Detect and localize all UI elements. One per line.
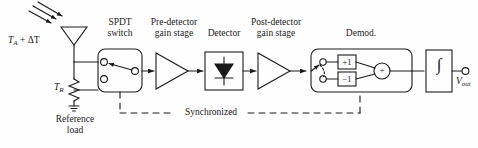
post-detector-amplifier	[258, 53, 290, 89]
wire-plus-to-sum	[356, 62, 375, 68]
reference-load-label: Referenceload	[40, 114, 110, 135]
pre-detector-amplifier	[156, 53, 188, 89]
synchronized-label: Synchronized	[174, 107, 248, 118]
reference-temperature-label: TR	[54, 82, 64, 95]
output-terminal	[462, 68, 469, 75]
spdt-contact-antenna	[101, 59, 108, 66]
antenna-temperature-label: TA + ΔT	[8, 35, 40, 48]
radiometer-diagram: TA + ΔT TR Referenceload SPDTswitch Pre-…	[0, 0, 478, 148]
spdt-switch-arm	[109, 64, 132, 71]
output-voltage-label: Vout	[456, 76, 471, 89]
demod-contact-plus	[320, 59, 326, 65]
post-detector-label: Post-detectorgain stage	[238, 17, 314, 38]
demod-switch-arm	[311, 65, 319, 71]
reference-load-symbol	[69, 62, 79, 111]
gain-minus-label: −1	[338, 74, 356, 85]
summer-label: +	[374, 65, 390, 76]
integrator-label: ∫	[426, 60, 452, 71]
spdt-contact-reference	[101, 76, 108, 83]
demod-label: Demod.	[332, 28, 390, 39]
demod-contact-minus	[320, 76, 326, 82]
demod-switch-dashed-link	[320, 65, 324, 77]
gain-plus-label: +1	[338, 57, 356, 68]
diode-triangle	[215, 64, 233, 78]
spdt-common-terminal	[132, 68, 139, 75]
wire-minus-to-sum	[356, 74, 375, 79]
incoming-radiation-arrows	[29, 2, 62, 23]
antenna-symbol	[61, 27, 98, 62]
